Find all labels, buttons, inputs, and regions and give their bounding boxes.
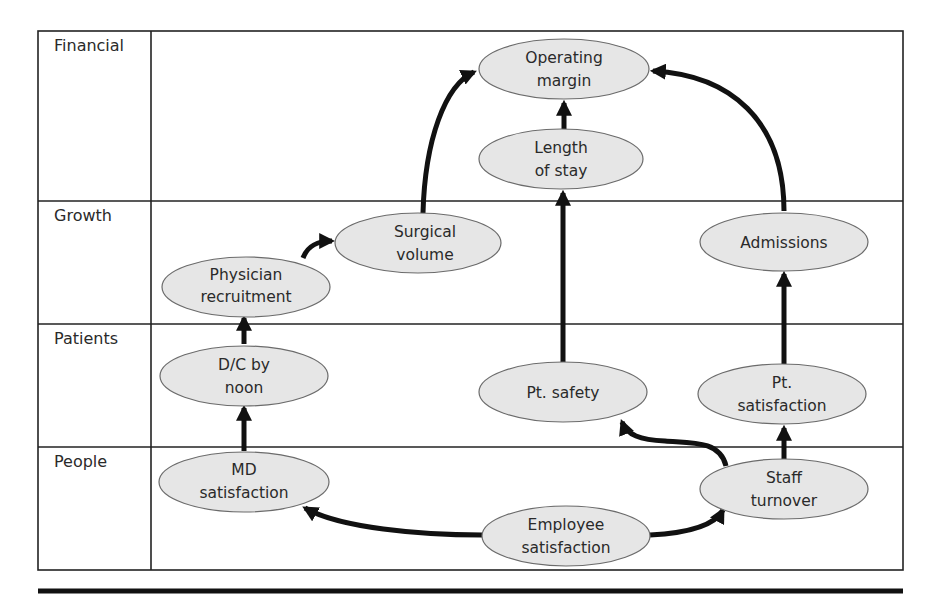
node-length-of-stay: Length of stay bbox=[479, 129, 643, 189]
node-dc-by-noon: D/C by noon bbox=[160, 346, 328, 406]
node-label: Admissions bbox=[740, 234, 827, 252]
arrow-admissions-to-operating bbox=[653, 71, 784, 211]
node-label: D/C by bbox=[218, 356, 270, 374]
node-md-satisfaction: MD satisfaction bbox=[159, 452, 329, 512]
arrow-surgical-to-operating bbox=[423, 72, 474, 213]
node-pt-satisfaction: Pt. satisfaction bbox=[698, 364, 866, 424]
node-label: MD bbox=[231, 461, 256, 479]
row-label-growth: Growth bbox=[54, 206, 112, 225]
node-employee-satisfaction: Employee satisfaction bbox=[482, 506, 650, 566]
arrow-staff-to-ptsafety bbox=[622, 422, 726, 466]
row-label-financial: Financial bbox=[54, 36, 124, 55]
arrow-employee-to-md bbox=[305, 508, 482, 535]
strategy-map-diagram: Operating margin Length of stay Surgical… bbox=[0, 0, 934, 600]
nodes: Operating margin Length of stay Surgical… bbox=[159, 39, 868, 566]
node-label: satisfaction bbox=[737, 397, 826, 415]
node-label: margin bbox=[537, 72, 592, 90]
diagram-canvas: Operating margin Length of stay Surgical… bbox=[0, 0, 934, 600]
node-label: Pt. safety bbox=[526, 384, 599, 402]
node-admissions: Admissions bbox=[700, 213, 868, 271]
arrow-physician-to-surgical bbox=[303, 241, 332, 258]
node-label: satisfaction bbox=[199, 484, 288, 502]
node-physician-recruitment: Physician recruitment bbox=[162, 257, 330, 317]
row-label-people: People bbox=[54, 452, 107, 471]
node-label: Operating bbox=[525, 49, 603, 67]
arrow-employee-to-staff bbox=[650, 510, 723, 535]
node-label: noon bbox=[225, 379, 264, 397]
node-staff-turnover: Staff turnover bbox=[700, 459, 868, 519]
node-label: of stay bbox=[535, 162, 588, 180]
node-operating-margin: Operating margin bbox=[479, 39, 649, 99]
node-label: Staff bbox=[766, 469, 802, 487]
node-surgical-volume: Surgical volume bbox=[335, 213, 501, 273]
node-label: satisfaction bbox=[521, 539, 610, 557]
node-label: recruitment bbox=[200, 288, 291, 306]
row-label-patients: Patients bbox=[54, 329, 118, 348]
node-label: volume bbox=[396, 246, 453, 264]
node-label: Physician bbox=[210, 266, 283, 284]
node-label: Surgical bbox=[394, 223, 456, 241]
node-label: turnover bbox=[751, 492, 818, 510]
node-label: Employee bbox=[528, 516, 605, 534]
node-label: Length bbox=[534, 139, 587, 157]
node-pt-safety: Pt. safety bbox=[479, 362, 647, 422]
node-label: Pt. bbox=[772, 374, 792, 392]
